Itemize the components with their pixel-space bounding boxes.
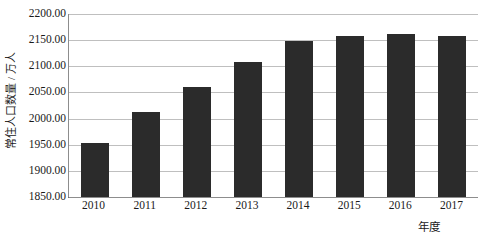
bar-chart: 常住人口数量 / 万人 1850.001900.001950.002000.00… (0, 0, 483, 251)
x-axis-tick-labels: 20102011201220132014201520162017 (68, 200, 478, 220)
x-axis-tick-label: 2010 (68, 200, 119, 212)
y-axis-tick-label: 2100.00 (18, 61, 66, 73)
bar (234, 62, 262, 197)
x-axis-tick-label: 2016 (375, 200, 426, 212)
x-axis-tick-label: 2011 (119, 200, 170, 212)
gridline (69, 197, 478, 198)
y-axis-tick-labels: 1850.001900.001950.002000.002050.002100.… (18, 0, 66, 205)
y-axis-tick-label: 2000.00 (18, 113, 66, 125)
x-axis-tick-label: 2012 (170, 200, 221, 212)
bar (285, 41, 313, 197)
y-axis-tick-label: 1850.00 (18, 191, 66, 203)
x-axis-tick-label: 2014 (273, 200, 324, 212)
y-axis-tick-label: 2150.00 (18, 34, 66, 46)
bar (336, 36, 364, 197)
y-axis-tick-label: 1900.00 (18, 165, 66, 177)
x-axis-tick-label: 2015 (324, 200, 375, 212)
y-axis-tick-label: 1950.00 (18, 139, 66, 151)
x-axis-tick-label: 2013 (221, 200, 272, 212)
bar (81, 143, 109, 197)
x-axis-title: 年度 (418, 222, 440, 234)
bars-layer (69, 14, 478, 197)
bar (387, 34, 415, 197)
bar (183, 87, 211, 197)
y-axis-title-text: 常住人口数量 / 万人 (6, 52, 17, 149)
plot-area (68, 14, 478, 197)
bar (132, 112, 160, 197)
y-axis-tick-label: 2200.00 (18, 8, 66, 20)
bar (438, 36, 466, 197)
y-axis-tick-label: 2050.00 (18, 87, 66, 99)
x-axis-tick-label: 2017 (426, 200, 477, 212)
